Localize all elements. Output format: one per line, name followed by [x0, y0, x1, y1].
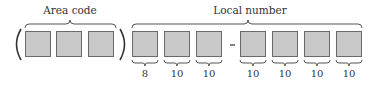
digit-choice-count: 8: [130, 68, 160, 79]
local-digit-box: [132, 31, 158, 57]
area-code-digit-box: [56, 31, 82, 57]
area-code-digit-box: [25, 31, 51, 57]
local-digit-box: [336, 31, 362, 57]
left-paren: [17, 29, 22, 60]
digit-choice-count: 10: [162, 68, 192, 79]
digit-choice-count: 10: [334, 68, 364, 79]
area-code-digit-box: [88, 31, 114, 57]
digit-braces: [132, 60, 362, 66]
digit-choice-count: 10: [238, 68, 268, 79]
digit-choice-count: 10: [194, 68, 224, 79]
right-paren: [120, 29, 125, 60]
local-digit-box: [196, 31, 222, 57]
local-digit-box: [304, 31, 330, 57]
digit-choice-count: 10: [302, 68, 332, 79]
local-digit-box: [272, 31, 298, 57]
local-number-brace: [132, 20, 362, 28]
digit-choice-count: 10: [270, 68, 300, 79]
local-digit-box: [240, 31, 266, 57]
area-code-brace: [25, 20, 116, 28]
local-digit-box: [164, 31, 190, 57]
